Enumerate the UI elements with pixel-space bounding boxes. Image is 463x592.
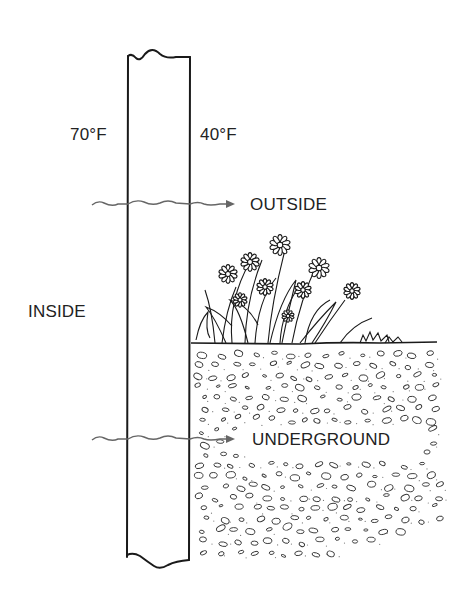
wall-section: [127, 50, 190, 568]
heat-flow-diagram: 70°F 40°F OUTSIDE INSIDE UNDERGROUND: [0, 0, 463, 592]
inside-label: INSIDE: [28, 303, 86, 320]
outside-label: OUTSIDE: [250, 196, 327, 213]
ground-line: [191, 342, 437, 344]
soil-dots: [206, 356, 447, 559]
underground-label: UNDERGROUND: [252, 431, 390, 448]
diagram-canvas: [0, 0, 463, 592]
outside-arrow: [92, 200, 235, 208]
flower-bed: [196, 235, 402, 343]
underground-arrow: [92, 435, 235, 443]
inside-temperature-label: 70°F: [70, 126, 107, 143]
outside-temperature-label: 40°F: [200, 126, 237, 143]
soil-pebbles: [193, 349, 444, 558]
